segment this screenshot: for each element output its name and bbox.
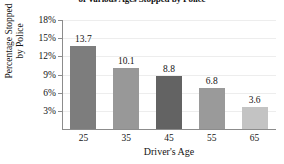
- y-axis-title-line-2: by Police: [15, 0, 26, 97]
- bar-value-label: 10.1: [118, 56, 135, 66]
- gridline: [63, 38, 276, 39]
- y-tick-label: 6%: [43, 88, 56, 98]
- y-tick-label: 9%: [43, 70, 56, 80]
- bar-value-label: 13.7: [75, 34, 92, 44]
- bar: 10.1: [113, 68, 139, 129]
- chart-title: of Various Ages Stopped by Police: [0, 0, 284, 4]
- gridline: [63, 20, 276, 21]
- x-axis-line: [62, 129, 276, 130]
- bar: 8.8: [156, 76, 182, 129]
- x-tick-label: 25: [79, 133, 89, 143]
- y-tick-label: 15%: [39, 33, 56, 43]
- y-tick-mark: [58, 111, 62, 112]
- y-tick-mark: [58, 56, 62, 57]
- x-tick-label: 65: [250, 133, 260, 143]
- bar-value-label: 6.8: [206, 76, 218, 86]
- bar: 13.7: [70, 46, 96, 129]
- y-axis-title-line-1: Percentage Stopped: [4, 0, 15, 97]
- bar-chart: of Various Ages Stopped by Police Percen…: [0, 0, 284, 164]
- y-tick-mark: [58, 93, 62, 94]
- x-axis-title: Driver's Age: [62, 146, 276, 157]
- x-tick-label: 55: [207, 133, 217, 143]
- y-tick-mark: [58, 75, 62, 76]
- bar-value-label: 8.8: [163, 64, 175, 74]
- bar: 6.8: [199, 88, 225, 129]
- y-tick-label: 12%: [39, 51, 56, 61]
- x-tick-label: 35: [121, 133, 131, 143]
- x-tick-label: 45: [164, 133, 174, 143]
- y-tick-label: 3%: [43, 106, 56, 116]
- bar: 3.6: [242, 107, 268, 129]
- y-axis-title: Percentage Stopped by Police: [4, 0, 26, 97]
- y-tick-mark: [58, 38, 62, 39]
- y-tick-mark: [58, 20, 62, 21]
- bar-value-label: 3.6: [249, 95, 261, 105]
- plot-area: 3%6%9%12%15%18% 13.710.18.86.83.6 253545…: [62, 20, 276, 129]
- y-tick-label: 18%: [39, 15, 56, 25]
